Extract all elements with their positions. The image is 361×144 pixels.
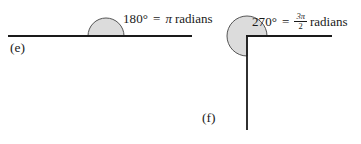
radians-word-e: radians (175, 12, 213, 25)
equals-sign-f: = (282, 15, 289, 28)
angle-degrees-value-180: 180° (123, 12, 148, 25)
part-label-f: (f) (202, 111, 216, 125)
radians-word-f: radians (310, 15, 348, 28)
fraction-denominator: 2 (297, 22, 305, 31)
figure-canvas: (e) 180° = π radians (f) 270° = 3π 2 rad… (0, 0, 361, 144)
angle-label-180-degrees: 180° = π radians (123, 12, 213, 25)
fraction-three-pi-over-two: 3π 2 (294, 12, 307, 32)
fraction-numerator: 3π (294, 12, 307, 22)
angle-degrees-value-270: 270° (252, 15, 277, 28)
pi-symbol: π (165, 12, 172, 25)
part-label-e: (e) (10, 41, 25, 55)
angle-label-270-degrees: 270° = 3π 2 radians (252, 12, 348, 32)
semicircle-180-shaded-region (88, 18, 124, 36)
equals-sign-e: = (153, 12, 160, 25)
part-f-group (227, 16, 332, 130)
